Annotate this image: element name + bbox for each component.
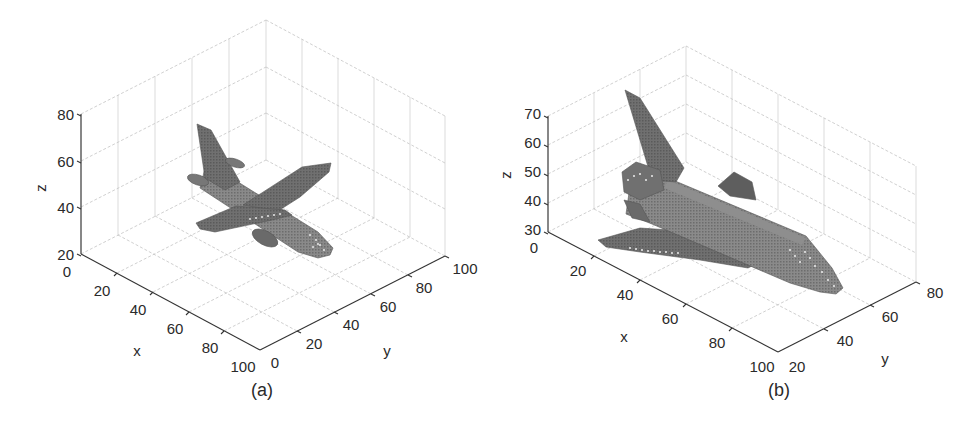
panel-b-y-ticks: 20 40 60 80: [789, 284, 944, 375]
y-tick: 80: [927, 284, 944, 301]
x-tick: 80: [709, 334, 726, 351]
x-tick: 100: [230, 358, 255, 375]
z-tick: 60: [57, 153, 74, 170]
z-tick: 20: [57, 246, 74, 263]
panel-b: 70 60 50 40 30 0 20 40 60 80 100 20 40 6…: [497, 46, 943, 400]
panel-b-z-ticks: 70 60 50 40 30: [524, 105, 541, 238]
z-tick: 40: [524, 192, 541, 209]
x-tick: 60: [662, 310, 679, 327]
y-axis-label: y: [881, 350, 889, 367]
panel-a-y-ticks: 0 20 40 60 80 100: [271, 260, 478, 371]
y-tick: 60: [882, 308, 899, 325]
figure: 80 60 40 20 0 20 40 60 80 100 0 20 40 60…: [0, 0, 978, 427]
y-tick: 20: [306, 335, 323, 352]
panel-a-x-ticks: 0 20 40 60 80 100: [63, 263, 256, 375]
x-tick: 0: [63, 263, 71, 280]
panel-b-caption: (b): [768, 380, 790, 400]
x-tick: 40: [617, 286, 634, 303]
y-tick: 80: [416, 279, 433, 296]
panel-a-z-ticks: 80 60 40 20: [57, 106, 74, 263]
panel-a-caption: (a): [251, 380, 273, 400]
x-tick: 40: [130, 301, 147, 318]
panel-a: 80 60 40 20 0 20 40 60 80 100 0 20 40 60…: [32, 20, 478, 400]
y-tick: 100: [452, 260, 477, 277]
x-tick: 60: [167, 320, 184, 337]
z-axis-label: z: [32, 184, 49, 192]
z-tick: 50: [524, 163, 541, 180]
z-tick: 30: [524, 221, 541, 238]
y-axis-label: y: [383, 342, 391, 359]
airplane-model: [186, 124, 333, 258]
z-tick: 40: [57, 199, 74, 216]
z-tick: 70: [524, 105, 541, 122]
x-tick: 0: [530, 239, 538, 256]
x-tick: 80: [202, 339, 219, 356]
x-axis-label: x: [133, 342, 141, 359]
x-tick: 20: [94, 282, 111, 299]
y-tick: 60: [380, 298, 397, 315]
z-tick: 60: [524, 134, 541, 151]
y-tick: 40: [343, 316, 360, 333]
x-tick: 20: [570, 262, 587, 279]
x-axis-label: x: [620, 328, 628, 345]
y-tick: 20: [789, 358, 806, 375]
y-tick: 0: [271, 354, 279, 371]
z-axis-label: z: [497, 171, 514, 179]
y-tick: 40: [837, 332, 854, 349]
x-tick: 100: [749, 358, 774, 375]
z-tick: 80: [57, 106, 74, 123]
